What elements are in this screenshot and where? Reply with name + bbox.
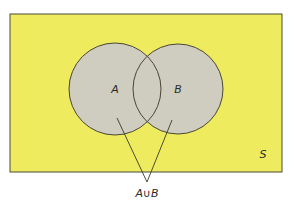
set-b-label: B <box>174 83 182 96</box>
union-label: A∪B <box>134 187 158 200</box>
set-a-label: A <box>110 83 119 96</box>
universe-label: S <box>260 148 267 161</box>
venn-diagram: A B S A∪B <box>0 0 294 203</box>
